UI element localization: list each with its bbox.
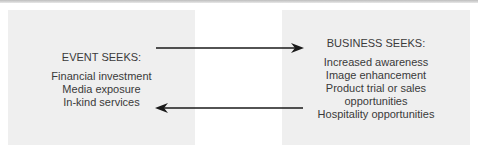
arrows-layer <box>0 0 478 156</box>
arrow-right-icon <box>156 43 304 53</box>
arrow-left-icon <box>155 103 303 113</box>
